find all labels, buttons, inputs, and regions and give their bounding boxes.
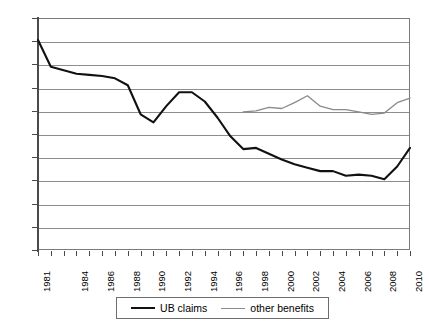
x-tick-label: 2002	[311, 271, 321, 292]
x-tick-mark	[295, 251, 296, 256]
x-tick-mark	[307, 251, 308, 256]
chart-legend: UB claims other benefits	[116, 297, 329, 319]
x-tick-label: 1994	[209, 271, 219, 292]
x-tick-label: 1986	[106, 271, 116, 292]
x-tick-label: 1981	[42, 271, 52, 292]
x-tick-mark	[256, 251, 257, 256]
x-tick-mark	[192, 251, 193, 256]
x-tick-mark	[384, 251, 385, 256]
x-tick-mark	[179, 251, 180, 256]
x-tick-mark	[218, 251, 219, 256]
legend-swatch-line-icon	[221, 308, 245, 309]
x-tick-label: 2000	[286, 271, 296, 292]
x-tick-label: 2010	[414, 271, 424, 292]
x-tick-mark	[76, 251, 77, 256]
x-tick-label: 2008	[388, 271, 398, 292]
x-tick-mark	[153, 251, 154, 256]
series-container	[38, 18, 410, 250]
x-tick-mark	[269, 251, 270, 256]
legend-item-other-benefits: other benefits	[221, 303, 314, 314]
x-tick-label: 1984	[80, 271, 90, 292]
x-tick-mark	[38, 251, 39, 256]
x-tick-mark	[102, 251, 103, 256]
x-tick-label: 1988	[132, 271, 142, 292]
line-chart: 1009080706050403020100 19811984198619881…	[0, 0, 429, 327]
legend-label: UB claims	[160, 303, 207, 314]
x-tick-mark	[397, 251, 398, 256]
x-tick-mark	[51, 251, 52, 256]
x-tick-label: 2004	[337, 271, 347, 292]
x-tick-mark	[320, 251, 321, 256]
x-tick-label: 1998	[260, 271, 270, 292]
x-tick-mark	[333, 251, 334, 256]
x-tick-label: 2006	[363, 271, 373, 292]
x-tick-label: 1996	[234, 271, 244, 292]
x-tick-mark	[205, 251, 206, 256]
x-tick-label: 1990	[157, 271, 167, 292]
x-tick-mark	[359, 251, 360, 256]
x-tick-mark	[115, 251, 116, 256]
x-tick-mark	[128, 251, 129, 256]
x-tick-mark	[346, 251, 347, 256]
x-tick-mark	[64, 251, 65, 256]
x-tick-mark	[89, 251, 90, 256]
legend-swatch-line-icon	[131, 307, 155, 309]
x-tick-mark	[410, 251, 411, 256]
legend-label: other benefits	[250, 303, 314, 314]
legend-item-ub-claims: UB claims	[131, 303, 207, 314]
series-line-other-benefits	[243, 96, 410, 115]
x-tick-mark	[282, 251, 283, 256]
x-tick-mark	[372, 251, 373, 256]
x-tick-mark	[243, 251, 244, 256]
x-tick-label: 1992	[183, 271, 193, 292]
x-tick-mark	[230, 251, 231, 256]
x-tick-mark	[166, 251, 167, 256]
series-line-ub-claims	[38, 40, 410, 179]
x-tick-mark	[141, 251, 142, 256]
